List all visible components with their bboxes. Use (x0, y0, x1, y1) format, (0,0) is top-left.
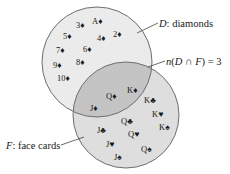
card-element: 4♦ (97, 33, 106, 43)
card-element: J♠ (114, 152, 122, 162)
f-set-label: F: face cards (5, 140, 60, 151)
card-element: Q♣ (121, 116, 133, 126)
venn-diagram: 3♦A♦5♦4♦2♦7♦6♦9♦8♦10♦ K♦Q♦J♦ K♣K♥K♠J♣Q♣J… (0, 0, 230, 174)
card-element: Q♦ (106, 91, 117, 101)
card-element: 7♦ (56, 45, 65, 55)
d-set-name: : diamonds (167, 18, 213, 29)
card-element: K♠ (159, 122, 170, 132)
card-element: J♣ (97, 125, 106, 135)
card-element: 5♦ (63, 31, 72, 41)
card-element: J♥ (106, 139, 114, 149)
d-set-label: D: diamonds (158, 18, 213, 29)
f-set-name: : face cards (12, 140, 60, 151)
card-element: Q♠ (141, 144, 152, 154)
card-element: 3♦ (76, 20, 85, 30)
card-element: 2♦ (113, 29, 122, 39)
card-element: 9♦ (53, 60, 62, 70)
intersection-symbol: ∩ (182, 56, 195, 67)
card-element: K♦ (127, 85, 138, 95)
card-element: J♦ (90, 103, 98, 113)
card-element: K♣ (144, 95, 156, 105)
card-element: Q♥ (128, 129, 139, 139)
card-element: 6♦ (83, 44, 92, 54)
card-element: K♥ (152, 109, 163, 119)
card-element: A♦ (92, 16, 103, 26)
card-element: 8♦ (76, 57, 85, 67)
equals-three: = 3 (205, 56, 221, 67)
card-element: 10♦ (57, 73, 71, 83)
intersection-count-label: n(D ∩ F) = 3 (166, 56, 222, 68)
